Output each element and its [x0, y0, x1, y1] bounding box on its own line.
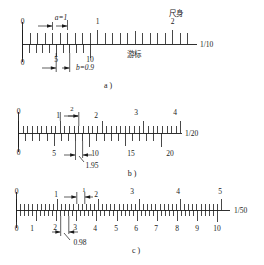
panel-c-bottom-tick-8: 8 — [175, 224, 179, 233]
panel-c-bottom-tick-4: 4 — [93, 224, 97, 233]
panel-c-bottom-tick-6: 6 — [134, 224, 138, 233]
panel-c-dim-bottom: 0.98 — [52, 216, 87, 247]
panel-a: a=1 b=0.9 0 1 2 0 5 10 尺身 游标 1/10 a ) — [21, 8, 214, 90]
panel-c-bottom-tick-0: 0 — [15, 224, 19, 233]
panel-c-top-tick-4: 4 — [176, 187, 180, 196]
panel-c-bottom-tick-9: 9 — [195, 224, 199, 233]
panel-b-main-ticks — [19, 121, 181, 133]
panel-a-dim-a: a=1 — [38, 13, 68, 31]
panel-b-caption: b ) — [128, 169, 137, 178]
panel-c-bottom-tick-3: 3 — [73, 223, 77, 232]
panel-b-top-tick-4: 4 — [173, 108, 177, 117]
panel-c-main-ticks — [17, 199, 222, 210]
panel-b: 2 1.95 0 1 2 3 4 0 5 10 15 20 1/20 b ) — [17, 105, 199, 178]
panel-c-dim-bottom-label: 0.98 — [73, 238, 86, 247]
panel-b-bottom-tick-5: 5 — [52, 149, 56, 158]
panel-c-bottom-tick-1: 1 — [30, 224, 34, 233]
panel-c-bottom-tick-7: 7 — [154, 224, 158, 233]
panel-a-top-tick-0: 0 — [21, 17, 25, 26]
panel-c-top-tick-0: 0 — [15, 187, 19, 196]
panel-a-main-ticks — [23, 30, 188, 44]
panel-c: 1 0.98 0 1 2 3 4 5 0 1 2 3 4 5 6 7 8 9 1… — [15, 186, 248, 255]
panel-a-bottom-tick-0: 0 — [21, 58, 25, 67]
panel-c-ratio-label: 1/50 — [234, 206, 248, 215]
panel-b-top-tick-0: 0 — [17, 107, 21, 116]
panel-b-dim-top: 2 — [60, 105, 79, 126]
panel-a-bottom-tick-10: 10 — [86, 55, 94, 64]
panel-a-main-scale-name: 尺身 — [169, 8, 184, 18]
panel-c-bottom-tick-5: 5 — [114, 224, 118, 233]
panel-b-dim-top-label: 2 — [70, 105, 73, 112]
panel-b-ratio-label: 1/20 — [185, 129, 199, 138]
panel-b-bottom-tick-20: 20 — [166, 149, 174, 158]
panel-b-top-tick-1: 1 — [56, 111, 60, 120]
vernier-scales-figure: a=1 b=0.9 0 1 2 0 5 10 尺身 游标 1/10 a ) — [0, 0, 264, 265]
panel-c-dim-top: 1 — [64, 186, 93, 204]
panel-c-bottom-tick-2: 2 — [53, 223, 57, 232]
panel-c-caption: c ) — [132, 246, 141, 255]
panel-b-bottom-tick-10: 10 — [91, 149, 99, 158]
panel-c-vernier-ticks — [17, 210, 218, 222]
panel-b-top-tick-2: 2 — [94, 111, 98, 120]
panel-a-bottom-tick-5: 5 — [54, 55, 58, 64]
panel-b-bottom-tick-0: 0 — [17, 148, 21, 157]
panel-a-top-tick-1: 1 — [96, 17, 100, 26]
panel-c-dim-top-label: 1 — [82, 186, 85, 193]
panel-c-bottom-tick-10: 10 — [213, 224, 221, 233]
panel-c-top-tick-1: 1 — [54, 190, 58, 199]
panel-c-top-tick-2: 2 — [94, 190, 98, 199]
panel-b-top-tick-3: 3 — [134, 108, 138, 117]
panel-a-top-tick-2: 2 — [171, 17, 175, 26]
panel-c-top-tick-5: 5 — [218, 187, 222, 196]
panel-c-top-tick-3: 3 — [130, 187, 134, 196]
panel-b-vernier-ticks — [19, 133, 162, 147]
panel-b-dim-bottom-label: 1.95 — [85, 161, 98, 170]
panel-a-dim-b-label: b=0.9 — [76, 63, 94, 72]
panel-a-ratio-label: 1/10 — [200, 40, 214, 49]
panel-a-caption: a ) — [104, 81, 113, 90]
panel-a-dim-a-label: a=1 — [55, 13, 68, 22]
panel-a-vernier-name: 游标 — [127, 49, 142, 59]
panel-b-bottom-tick-15: 15 — [127, 149, 135, 158]
